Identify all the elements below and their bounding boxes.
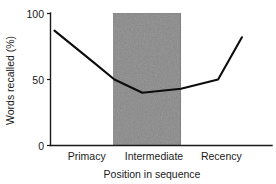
y-tick-label-100: 100 — [26, 8, 44, 20]
serial-position-curve-figure: 100 50 0 Words recalled (%) Primacy Inte… — [0, 0, 276, 184]
chart-canvas: 100 50 0 Words recalled (%) Primacy Inte… — [0, 0, 276, 184]
x-category-label-primacy: Primacy — [68, 150, 107, 162]
x-category-label-recency: Recency — [201, 150, 243, 162]
intermediate-shaded-band — [114, 14, 181, 146]
y-tick-label-50: 50 — [32, 74, 44, 86]
y-axis-title: Words recalled (%) — [4, 36, 16, 125]
x-category-label-intermediate: Intermediate — [125, 150, 184, 162]
y-tick-label-0: 0 — [38, 140, 44, 152]
x-axis-title: Position in sequence — [104, 168, 201, 180]
